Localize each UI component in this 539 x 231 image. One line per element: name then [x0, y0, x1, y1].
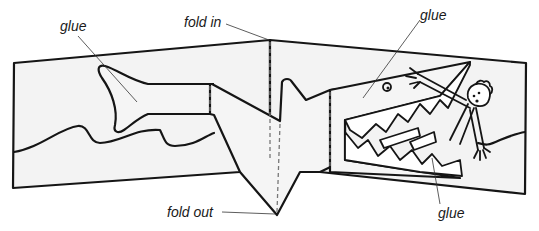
label-fold-in: fold in [184, 14, 222, 30]
leader-fold-out [222, 212, 275, 214]
shark-pupil [387, 87, 390, 90]
label-fold-out: fold out [167, 204, 214, 220]
label-glue-head: glue [420, 7, 447, 23]
leader-fold-in [226, 24, 269, 40]
popup-card-diagram: glue fold in glue fold out glue [0, 0, 539, 231]
label-glue-mouth: glue [438, 205, 465, 221]
label-glue-tail: glue [60, 18, 87, 34]
